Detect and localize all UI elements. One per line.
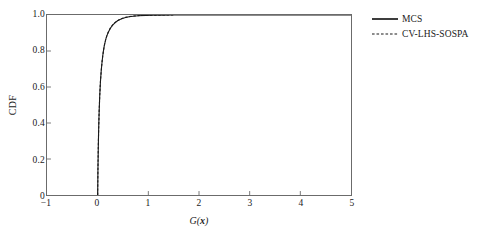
legend-label: CV-LHS-SOSPA <box>402 29 469 39</box>
x-tick-label: −1 <box>41 198 52 208</box>
x-tick-label: 0 <box>95 198 100 208</box>
x-axis-title-prefix: G( <box>190 215 201 226</box>
x-tick-label: 5 <box>350 198 355 208</box>
y-tick-label: 0.4 <box>33 118 45 128</box>
cdf-chart-figure: CDF 00.20.40.60.81.0 −1012345 G(x) MCSCV… <box>0 0 482 238</box>
series-line-cv-lhs-sospa <box>98 15 174 195</box>
x-tick-label: 3 <box>248 198 253 208</box>
legend-item: MCS <box>372 12 480 26</box>
x-tick-marks <box>98 191 301 195</box>
y-tick-label: 1.0 <box>33 9 45 19</box>
series-line-mcs <box>98 15 351 195</box>
chart-legend: MCSCV-LHS-SOSPA <box>372 12 480 42</box>
x-axis-title: G(x) <box>190 215 209 226</box>
y-axis-title: CDF <box>7 95 18 116</box>
x-tick-label: 2 <box>197 198 202 208</box>
plot-canvas <box>47 15 351 195</box>
x-tick-label: 1 <box>146 198 151 208</box>
legend-label: MCS <box>402 14 422 24</box>
legend-line-sample-solid <box>372 14 398 24</box>
x-axis-title-suffix: ) <box>205 215 208 226</box>
plot-area <box>46 14 352 196</box>
x-tick-label: 4 <box>299 198 304 208</box>
legend-item: CV-LHS-SOSPA <box>372 27 480 41</box>
y-tick-label: 0.8 <box>33 45 45 55</box>
y-tick-marks <box>47 51 51 159</box>
legend-line-sample-dashed <box>372 29 398 39</box>
y-tick-label: 0.6 <box>33 82 45 92</box>
y-tick-label: 0.2 <box>33 155 45 165</box>
